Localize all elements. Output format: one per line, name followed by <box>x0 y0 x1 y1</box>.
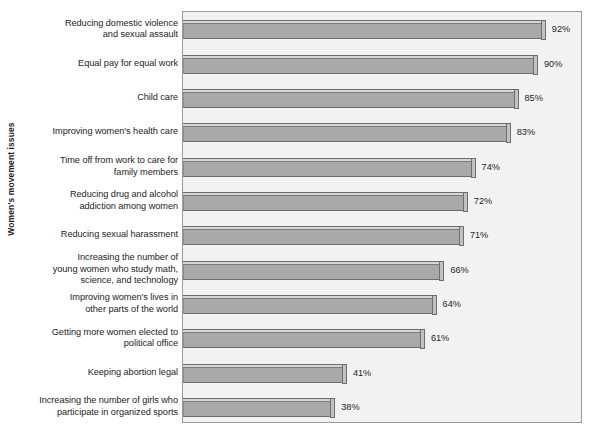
category-label: Time off from work to care forfamily mem… <box>14 155 178 178</box>
category-label-line: Reducing sexual harassment <box>14 229 178 240</box>
category-label-line: Increasing the number of girls who <box>14 395 178 406</box>
category-label-line: addiction among women <box>14 201 178 212</box>
category-label-line: Getting more women elected to <box>14 327 178 338</box>
category-label: Increasing the number ofyoung women who … <box>14 252 178 286</box>
bar-value-label: 85% <box>525 93 543 103</box>
category-label-line: Time off from work to care for <box>14 155 178 166</box>
bar <box>183 226 466 246</box>
bar-front-face <box>183 333 421 348</box>
caption-strip-cutoff <box>184 428 584 435</box>
category-label-line: Increasing the number of <box>14 252 178 263</box>
category-label: Equal pay for equal work <box>14 58 178 69</box>
bar-front-face <box>183 59 534 74</box>
bar-end-cap <box>420 329 425 349</box>
category-label-line: young women who study math, <box>14 264 178 275</box>
bar-front-face <box>183 402 331 417</box>
bar-front-face <box>183 230 460 245</box>
category-label: Reducing drug and alcoholaddiction among… <box>14 189 178 212</box>
category-label-line: political office <box>14 338 178 349</box>
bar-end-cap <box>330 398 335 418</box>
bar-front-face <box>183 299 433 314</box>
category-label-line: family members <box>14 167 178 178</box>
category-label: Improving women's health care <box>14 126 178 137</box>
category-label-line: and sexual assault <box>14 29 178 40</box>
bar-end-cap <box>463 192 468 212</box>
bar <box>183 398 337 418</box>
bar-front-face <box>183 93 515 108</box>
bar-front-face <box>183 127 507 142</box>
bar-end-cap <box>432 295 437 315</box>
bar-value-label: 61% <box>431 333 449 343</box>
bar <box>183 158 478 178</box>
bar <box>183 123 513 143</box>
category-label: Getting more women elected topolitical o… <box>14 327 178 350</box>
bar-value-label: 74% <box>482 162 500 172</box>
bar <box>183 364 349 384</box>
category-label: Increasing the number of girls whopartic… <box>14 395 178 418</box>
category-label-line: participate in organized sports <box>14 407 178 418</box>
bar-end-cap <box>342 364 347 384</box>
bar-end-cap <box>459 226 464 246</box>
bar-front-face <box>183 265 440 280</box>
bar <box>183 295 439 315</box>
bar <box>183 89 521 109</box>
category-label: Child care <box>14 92 178 103</box>
bars-container: 92%90%85%83%74%72%71%66%64%61%41%38% <box>183 12 581 422</box>
category-label-line: Reducing domestic violence <box>14 18 178 29</box>
bar <box>183 55 540 75</box>
bar-front-face <box>183 196 464 211</box>
bar-end-cap <box>439 261 444 281</box>
category-label-line: science, and technology <box>14 275 178 286</box>
category-label-line: Keeping abortion legal <box>14 367 178 378</box>
bar-value-label: 90% <box>544 59 562 69</box>
bar-value-label: 38% <box>341 402 359 412</box>
category-label-line: Child care <box>14 92 178 103</box>
bar-end-cap <box>506 123 511 143</box>
bar-value-label: 72% <box>474 196 492 206</box>
bar-value-label: 41% <box>353 368 371 378</box>
category-label-line: Reducing drug and alcohol <box>14 189 178 200</box>
bar <box>183 20 548 40</box>
category-axis-labels: Reducing domestic violenceand sexual ass… <box>14 11 178 423</box>
bar-end-cap <box>541 20 546 40</box>
category-label: Reducing domestic violenceand sexual ass… <box>14 18 178 41</box>
bar-end-cap <box>533 55 538 75</box>
bar-value-label: 66% <box>450 265 468 275</box>
bar-end-cap <box>514 89 519 109</box>
bar <box>183 329 427 349</box>
category-label: Reducing sexual harassment <box>14 229 178 240</box>
bar <box>183 192 470 212</box>
bar-value-label: 83% <box>517 127 535 137</box>
bar-chart: Women's movement issues Reducing domesti… <box>0 0 606 435</box>
category-label: Keeping abortion legal <box>14 367 178 378</box>
plot-area: 92%90%85%83%74%72%71%66%64%61%41%38% <box>182 11 582 423</box>
category-label-line: Improving women's health care <box>14 126 178 137</box>
category-label-line: Equal pay for equal work <box>14 58 178 69</box>
bar-value-label: 71% <box>470 230 488 240</box>
category-label-line: other parts of the world <box>14 304 178 315</box>
category-label-line: Improving women's lives in <box>14 292 178 303</box>
bar <box>183 261 446 281</box>
bar-value-label: 64% <box>443 299 461 309</box>
bar-front-face <box>183 24 542 39</box>
bar-end-cap <box>471 158 476 178</box>
category-label: Improving women's lives inother parts of… <box>14 292 178 315</box>
bar-front-face <box>183 368 343 383</box>
bar-front-face <box>183 162 472 177</box>
bar-value-label: 92% <box>552 24 570 34</box>
